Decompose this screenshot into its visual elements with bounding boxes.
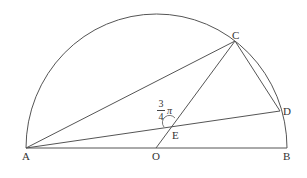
- segment-AD: [26, 111, 280, 148]
- label-O: O: [152, 151, 160, 162]
- label-C: C: [232, 30, 239, 41]
- segment-OC: [156, 41, 235, 148]
- segment-AC: [26, 41, 235, 148]
- segment-CD: [235, 41, 280, 111]
- label-D: D: [283, 106, 291, 117]
- geometry-diagram: A O B C D E 3 4 π: [0, 0, 307, 178]
- angle-denominator: 4: [157, 112, 165, 122]
- label-E: E: [172, 130, 179, 141]
- angle-label: 3 4 π: [157, 99, 165, 122]
- angle-numerator: 3: [157, 99, 165, 109]
- pi-symbol: π: [167, 106, 172, 116]
- label-B: B: [283, 151, 290, 162]
- label-A: A: [22, 151, 30, 162]
